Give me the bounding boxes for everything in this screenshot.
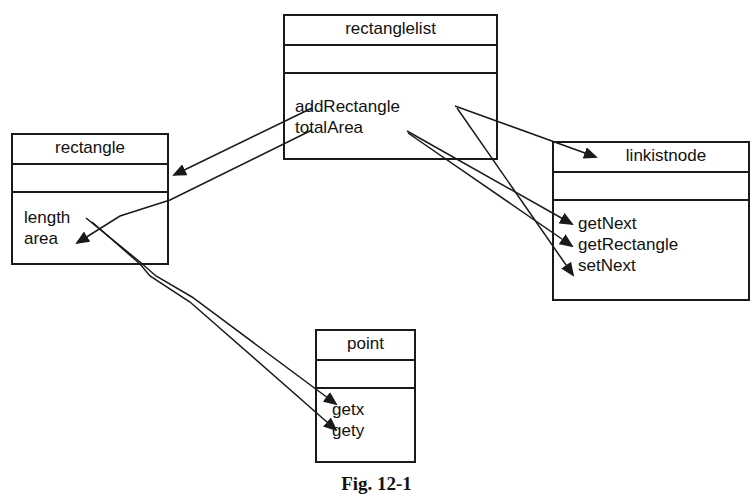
- operation-area: area: [24, 228, 167, 249]
- operation-addRectangle: addRectangle: [295, 96, 496, 117]
- class-operations: addRectangle totalArea: [285, 74, 496, 138]
- class-name: point: [317, 331, 414, 361]
- class-box-linkistnode: linkistnode getNext getRectangle setNext: [552, 141, 750, 301]
- class-box-rectanglelist: rectanglelist addRectangle totalArea: [283, 14, 498, 160]
- class-box-point: point getx gety: [315, 329, 416, 463]
- operation-length: length: [24, 207, 167, 228]
- class-attributes: [554, 173, 748, 201]
- class-name: rectangle: [13, 135, 167, 165]
- operation-totalArea: totalArea: [295, 117, 496, 138]
- class-name: rectanglelist: [285, 16, 496, 46]
- class-operations: getNext getRectangle setNext: [554, 201, 748, 276]
- class-name: linkistnode: [554, 143, 748, 173]
- figure-caption: Fig. 12-1: [0, 473, 753, 495]
- class-attributes: [317, 361, 414, 389]
- operation-getNext: getNext: [578, 213, 748, 234]
- operation-getRectangle: getRectangle: [578, 234, 748, 255]
- class-operations: length area: [13, 193, 167, 249]
- operation-gety: gety: [332, 420, 414, 441]
- operation-getx: getx: [332, 399, 414, 420]
- class-attributes: [285, 46, 496, 74]
- operation-setNext: setNext: [578, 255, 748, 276]
- class-operations: getx gety: [317, 389, 414, 441]
- class-box-rectangle: rectangle length area: [11, 133, 169, 265]
- class-attributes: [13, 165, 167, 193]
